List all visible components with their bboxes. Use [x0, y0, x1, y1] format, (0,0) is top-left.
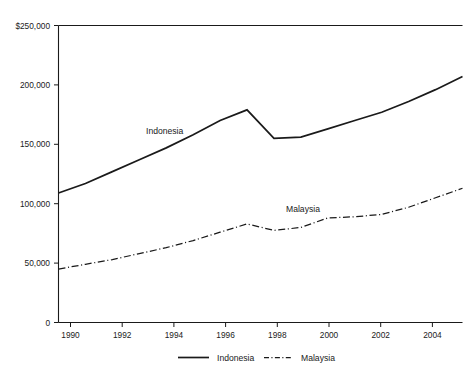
y-axis-label-200000: 200,000	[20, 80, 50, 90]
series-group	[59, 77, 463, 269]
x-axis-label-1992: 1992	[113, 330, 132, 340]
series-line-indonesia	[59, 77, 463, 193]
x-axis-label-1990: 1990	[61, 330, 80, 340]
x-axis-label-1994: 1994	[165, 330, 184, 340]
x-axis-label-2004: 2004	[423, 330, 442, 340]
y-axis-label-250000: $250,000	[15, 21, 50, 31]
legend-label-malaysia: Malaysia	[301, 353, 335, 363]
y-axis-label-50000: 50,000	[25, 258, 51, 268]
x-axis-ticks: 1990 1992 1994 1996 1998 2000 2002 2004	[61, 323, 442, 341]
y-axis-label-0: 0	[45, 318, 50, 328]
y-axis-label-100000: 100,000	[20, 199, 50, 209]
x-axis-label-1996: 1996	[216, 330, 235, 340]
line-chart: $250,000 200,000 150,000 100,000 50,000 …	[0, 0, 466, 376]
series-line-malaysia	[59, 188, 463, 269]
x-axis-label-2000: 2000	[320, 330, 339, 340]
x-axis-label-2002: 2002	[371, 330, 390, 340]
x-axis-label-1998: 1998	[268, 330, 287, 340]
chart-canvas: $250,000 200,000 150,000 100,000 50,000 …	[0, 0, 466, 376]
y-axis-label-150000: 150,000	[20, 139, 50, 149]
y-axis-ticks: $250,000 200,000 150,000 100,000 50,000 …	[15, 21, 58, 328]
inline-label-indonesia: Indonesia	[146, 126, 183, 136]
chart-legend: Indonesia Malaysia	[178, 353, 335, 363]
legend-label-indonesia: Indonesia	[217, 353, 254, 363]
axes-group	[59, 26, 463, 323]
inline-annotations: Indonesia Malaysia	[146, 126, 320, 214]
inline-label-malaysia: Malaysia	[286, 204, 320, 214]
